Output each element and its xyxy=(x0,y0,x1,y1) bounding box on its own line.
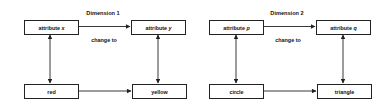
box-label: red xyxy=(47,89,55,95)
box-label: circle xyxy=(229,89,243,95)
box-label: attribute xyxy=(38,25,60,31)
circle-box: circle xyxy=(209,84,264,99)
variable-label: y xyxy=(169,25,172,31)
change-to-label: change to xyxy=(91,37,116,43)
box-label: attribute xyxy=(330,25,352,31)
attribute-q-box: attributeq xyxy=(316,20,371,35)
box-label: attribute xyxy=(223,25,245,31)
diagram-dimension-2: Dimension 2 change to attributep attribu… xyxy=(185,0,380,111)
box-label: attribute xyxy=(145,25,167,31)
diagram-dimension-1: Dimension 1 change to attributex attribu… xyxy=(0,0,195,111)
variable-label: q xyxy=(353,25,356,31)
change-to-label: change to xyxy=(275,37,300,43)
yellow-box: yellow xyxy=(132,84,187,99)
dimension-title: Dimension 2 xyxy=(270,10,303,16)
variable-label: p xyxy=(246,25,249,31)
attribute-x-box: attributex xyxy=(24,20,79,35)
box-label: triangle xyxy=(335,89,354,95)
attribute-p-box: attributep xyxy=(209,20,264,35)
triangle-box: triangle xyxy=(317,84,372,99)
box-label: yellow xyxy=(151,89,167,95)
variable-label: x xyxy=(62,25,65,31)
attribute-y-box: attributey xyxy=(131,20,186,35)
dimension-title: Dimension 1 xyxy=(86,10,119,16)
red-box: red xyxy=(24,84,79,99)
